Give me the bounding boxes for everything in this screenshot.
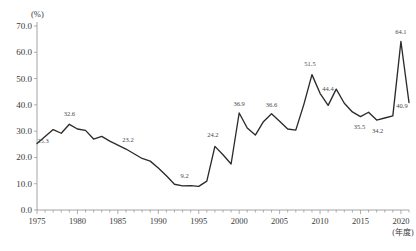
y-tick-label: 0.0 <box>21 205 33 215</box>
data-point-label: 51.5 <box>304 60 315 67</box>
data-point-label: 64.1 <box>395 28 406 35</box>
data-point-label: 32.6 <box>64 110 76 117</box>
x-axis-tick-labels: 1975198019851990199520002005201020152020 <box>29 216 410 226</box>
x-tick-label: 1995 <box>190 216 207 226</box>
data-point-label: 25.3 <box>37 137 48 144</box>
axis-lines <box>37 22 409 210</box>
chart-container: (%) 0.010.020.030.040.050.060.070.0 1975… <box>0 0 416 251</box>
x-tick-label: 2000 <box>231 216 248 226</box>
data-point-label: 23.2 <box>122 136 133 143</box>
y-tick-label: 50.0 <box>16 74 32 84</box>
x-tick-label: 1980 <box>69 216 86 226</box>
x-tick-label: 2010 <box>312 216 329 226</box>
data-point-label: 34.2 <box>372 127 383 134</box>
x-tick-label: 2015 <box>352 216 369 226</box>
y-axis-unit-group: (%) <box>31 9 44 19</box>
data-point-label: 9.2 <box>181 172 189 179</box>
x-axis-caption: (年度) <box>392 227 414 237</box>
y-axis-unit-label: (%) <box>31 9 44 19</box>
data-point-labels: 25.332.623.29.224.236.936.651.544.435.53… <box>37 28 407 179</box>
y-tick-label: 40.0 <box>16 100 32 110</box>
x-tick-label: 2005 <box>271 216 288 226</box>
y-axis-tick-labels: 0.010.020.030.040.050.060.070.0 <box>16 21 32 215</box>
x-tick-label: 1985 <box>109 216 126 226</box>
data-series-line <box>37 42 409 187</box>
data-point-label: 40.9 <box>396 102 407 109</box>
y-tick-label: 10.0 <box>16 179 32 189</box>
data-point-label: 36.6 <box>266 101 278 108</box>
y-tick-label: 60.0 <box>16 47 32 57</box>
axis-tick-marks <box>34 26 409 214</box>
y-tick-label: 20.0 <box>16 152 32 162</box>
y-tick-label: 70.0 <box>16 21 32 31</box>
data-point-label: 24.2 <box>207 131 218 138</box>
line-chart: (%) 0.010.020.030.040.050.060.070.0 1975… <box>0 0 416 251</box>
data-point-label: 44.4 <box>322 85 334 92</box>
x-tick-label: 1990 <box>150 216 167 226</box>
y-tick-label: 30.0 <box>16 126 32 136</box>
x-tick-label: 1975 <box>29 216 46 226</box>
data-point-label: 36.9 <box>233 100 244 107</box>
data-point-label: 35.5 <box>354 123 365 130</box>
x-tick-label: 2020 <box>392 216 409 226</box>
